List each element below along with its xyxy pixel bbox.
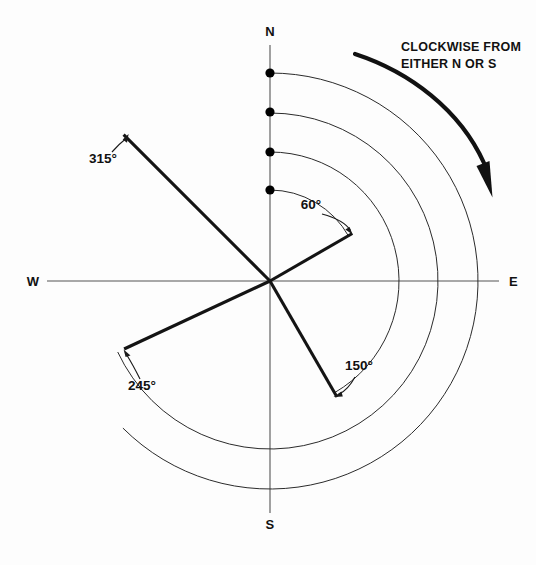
leader-arc-150 [339, 377, 356, 395]
bearing-label-150: 150° [345, 358, 373, 373]
compass-diagram: N S E W [0, 0, 536, 565]
bearing-arc-150 [270, 152, 399, 393]
cardinal-label-south: S [266, 517, 275, 532]
bearing-ray-315 [124, 135, 270, 281]
clockwise-arrowhead-icon [477, 161, 493, 198]
bearing-ray-150 [270, 281, 337, 397]
bearing-ray-60 [270, 234, 352, 282]
leader-pointers-group [112, 134, 355, 397]
note-line-1: CLOCKWISE FROM [401, 40, 521, 54]
leader-arc-60 [322, 214, 351, 231]
cardinal-label-east: E [509, 274, 518, 289]
clockwise-direction-arrow [355, 54, 493, 198]
tick-dot-60 [265, 185, 274, 194]
note-line-2: EITHER N OR S [401, 57, 497, 71]
leader-arrowhead-60 [345, 227, 352, 235]
compass-diagram-canvas: N S E W [0, 0, 536, 565]
bearing-label-315: 315° [89, 151, 117, 166]
bearing-label-245: 245° [128, 378, 156, 393]
bearing-rays-group [124, 135, 353, 397]
tick-dot-245 [265, 107, 274, 116]
bearing-label-60: 60° [301, 197, 321, 212]
leader-arc-245 [127, 355, 141, 380]
cardinal-label-west: W [27, 274, 40, 289]
tick-dot-315 [265, 68, 274, 77]
tick-dot-150 [265, 147, 274, 156]
bearing-ray-245 [124, 281, 270, 349]
cardinal-label-north: N [265, 24, 275, 39]
leader-arrowhead-245 [124, 350, 131, 357]
bearing-labels-group: 60° 150° 245° 315° [89, 151, 373, 393]
clockwise-note-group: CLOCKWISE FROM EITHER N OR S [401, 40, 521, 71]
